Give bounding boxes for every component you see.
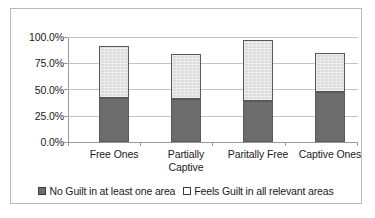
- category-axis: [68, 142, 358, 143]
- chart-legend: No Guilt in at least one area Feels Guil…: [11, 185, 361, 197]
- category-label-captive-ones: Captive Ones: [294, 148, 366, 161]
- legend-label: Feels Guilt in all relevant areas: [194, 185, 333, 197]
- legend-item-feels-guilt[interactable]: Feels Guilt in all relevant areas: [183, 185, 333, 197]
- bar-segment-feels-guilt[interactable]: [171, 54, 201, 99]
- y-axis: 100.0% 75.0% 50.0% 25.0% 0.0%: [11, 37, 64, 142]
- gridline-100: [68, 37, 358, 38]
- bar-segment-no-guilt[interactable]: [243, 101, 273, 142]
- category-tick-mark: [212, 142, 213, 146]
- category-tick-mark: [68, 142, 69, 146]
- y-tick-label: 25.0%: [12, 110, 64, 122]
- bar-segment-no-guilt[interactable]: [99, 98, 129, 142]
- y-tick-label: 100.0%: [12, 31, 64, 43]
- category-tick-mark: [285, 142, 286, 146]
- bar-segment-no-guilt[interactable]: [315, 92, 345, 142]
- y-tick-label: 75.0%: [12, 57, 64, 69]
- light-swatch-icon: [183, 187, 191, 195]
- category-label-paritally-free: Paritally Free: [222, 148, 294, 161]
- category-tick-mark: [357, 142, 358, 146]
- plot-area: [68, 37, 358, 142]
- category-label-line: Captive: [150, 161, 222, 174]
- legend-item-no-guilt[interactable]: No Guilt in at least one area: [38, 185, 175, 197]
- bar-segment-no-guilt[interactable]: [171, 99, 201, 142]
- dark-swatch-icon: [38, 187, 46, 195]
- y-tick-label: 50.0%: [12, 84, 64, 96]
- legend-label: No Guilt in at least one area: [49, 185, 175, 197]
- category-label-line: Paritally Free: [222, 148, 294, 161]
- bar-segment-feels-guilt[interactable]: [315, 53, 345, 92]
- category-label-line: Free Ones: [78, 148, 150, 161]
- category-tick-mark: [140, 142, 141, 146]
- category-label-partially-captive: Partially Captive: [150, 148, 222, 173]
- chart-frame: 100.0% 75.0% 50.0% 25.0% 0.0%: [10, 8, 362, 204]
- category-labels: Free Ones Partially Captive Paritally Fr…: [68, 148, 358, 182]
- y-tick-label: 0.0%: [12, 136, 64, 148]
- category-label-free-ones: Free Ones: [78, 148, 150, 161]
- bar-segment-feels-guilt[interactable]: [243, 40, 273, 101]
- category-label-line: Partially: [150, 148, 222, 161]
- category-label-line: Captive Ones: [294, 148, 366, 161]
- bar-segment-feels-guilt[interactable]: [99, 46, 129, 97]
